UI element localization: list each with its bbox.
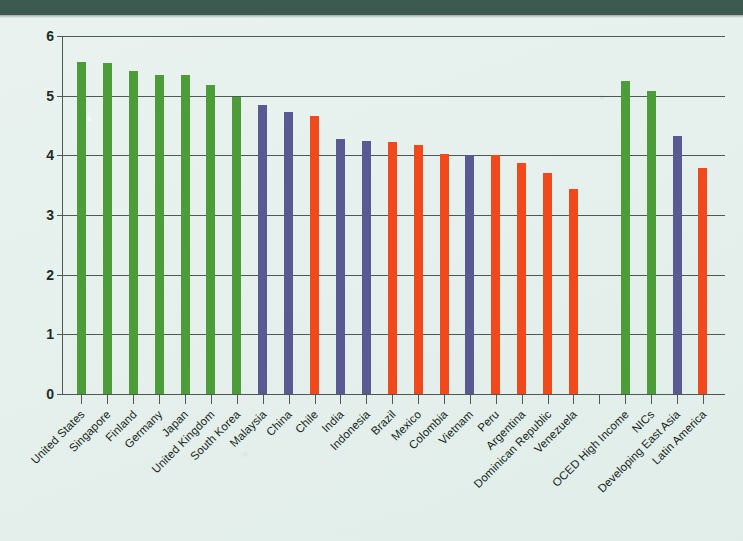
bar	[647, 91, 656, 394]
y-tick-label-3: 3	[46, 207, 54, 223]
y-tick-mark-3	[57, 215, 63, 216]
x-tick-mark	[418, 395, 419, 404]
x-tick-mark	[340, 395, 341, 404]
bar	[698, 168, 707, 394]
chart-page: 0123456 United StatesSingaporeFinlandGer…	[0, 0, 743, 541]
bar	[336, 139, 345, 394]
gridline-6	[62, 36, 725, 37]
x-tick-mark	[211, 395, 212, 404]
bar	[491, 155, 500, 394]
x-tick-mark	[522, 395, 523, 404]
x-tick-mark	[263, 395, 264, 404]
y-tick-mark-4	[57, 155, 63, 156]
x-tick-mark	[366, 395, 367, 404]
bar	[440, 154, 449, 394]
bar	[232, 97, 241, 394]
x-tick-mark	[548, 395, 549, 404]
x-tick-mark	[107, 395, 108, 404]
bar	[77, 62, 86, 394]
x-tick-label: Chile	[293, 408, 320, 435]
x-tick-mark	[573, 395, 574, 404]
y-tick-mark-5	[57, 96, 63, 97]
bar	[414, 145, 423, 394]
bar	[517, 163, 526, 395]
x-tick-mark	[81, 395, 82, 404]
y-tick-label-1: 1	[46, 326, 54, 342]
y-tick-label-2: 2	[46, 267, 54, 283]
bar	[310, 116, 319, 394]
bar	[258, 105, 267, 394]
x-tick-mark	[703, 395, 704, 404]
y-tick-mark-0	[57, 394, 63, 395]
bar	[129, 71, 138, 394]
x-tick-mark	[289, 395, 290, 404]
bar	[155, 75, 164, 394]
bar	[362, 141, 371, 394]
x-tick-mark	[677, 395, 678, 404]
x-tick-mark	[470, 395, 471, 404]
y-tick-label-5: 5	[46, 88, 54, 104]
bar	[621, 81, 630, 394]
y-tick-label-0: 0	[46, 386, 54, 402]
bar	[543, 173, 552, 394]
x-tick-mark	[315, 395, 316, 404]
bar	[284, 112, 293, 394]
x-tick-mark	[159, 395, 160, 404]
x-tick-mark	[133, 395, 134, 404]
plot-area: 0123456	[62, 36, 725, 394]
y-tick-label-4: 4	[46, 147, 54, 163]
bar	[465, 155, 474, 394]
bar	[103, 63, 112, 394]
bar	[673, 136, 682, 394]
x-tick-label: China	[264, 408, 294, 438]
page-top-band-shadow	[0, 15, 743, 18]
x-tick-mark	[392, 395, 393, 404]
bar	[181, 75, 190, 394]
y-tick-mark-1	[57, 334, 63, 335]
x-tick-mark	[185, 395, 186, 404]
y-tick-label-6: 6	[46, 28, 54, 44]
x-tick-mark	[237, 395, 238, 404]
bar	[388, 142, 397, 394]
y-tick-mark-2	[57, 275, 63, 276]
page-top-band	[0, 0, 743, 15]
bar	[206, 85, 215, 394]
x-tick-mark	[444, 395, 445, 404]
bar	[569, 189, 578, 394]
x-tick-mark	[651, 395, 652, 404]
y-tick-mark-6	[57, 36, 63, 37]
x-tick-mark	[496, 395, 497, 404]
x-tick-mark	[599, 395, 600, 404]
x-tick-mark	[625, 395, 626, 404]
